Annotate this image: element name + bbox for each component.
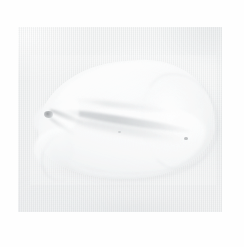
photo-panel [18,27,222,212]
dark-speck-right [184,137,188,140]
dark-speck-mid [118,131,121,133]
image-viewer [0,0,244,247]
specimen-object [30,55,216,185]
dark-apex-marking [44,111,53,118]
